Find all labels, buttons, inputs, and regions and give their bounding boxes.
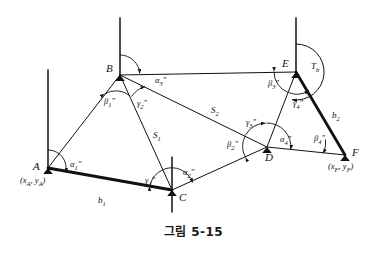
point-label-e: E xyxy=(282,58,289,69)
figure-caption: 그림 5-15 xyxy=(0,222,387,239)
station-marker-c xyxy=(167,190,177,196)
bearing-tb-sub: b xyxy=(316,66,319,73)
angle-label-alpha-2: α2″ xyxy=(183,168,194,179)
angle-alpha-3-marks: ″ xyxy=(163,75,167,85)
side-label-s1: S1 xyxy=(153,131,161,142)
side-label-b1: b1 xyxy=(98,196,106,207)
traverse-lines-thin xyxy=(48,72,345,190)
angle-label-beta-2: β2″ xyxy=(227,140,238,151)
baseline-lines-thick xyxy=(48,72,345,190)
coord-a-open: (x xyxy=(20,175,27,185)
arc-beta-2 xyxy=(243,136,246,158)
angle-alpha-2-marks: ″ xyxy=(191,167,195,177)
figure-root: A B C D E F (xA, yA) (xF, yF) b1 b2 S1 S… xyxy=(0,0,387,256)
coordinate-label-f: (xF, yF) xyxy=(328,162,353,173)
station-marker-b xyxy=(115,75,125,81)
station-markers xyxy=(43,72,350,196)
angle-gamma-1-marks: ″ xyxy=(152,175,156,185)
side-s2-sub: 2 xyxy=(216,110,219,117)
coordinate-label-a: (xA, yA) xyxy=(20,176,45,187)
angle-label-alpha-3: α3″ xyxy=(155,76,166,87)
angle-label-beta-4: β4″ xyxy=(314,134,325,145)
angle-label-alpha-1: α1″ xyxy=(70,160,81,171)
point-label-a: A xyxy=(33,161,40,172)
side-label-s2: S2 xyxy=(211,106,219,117)
angle-label-alpha-4: α4″ xyxy=(280,135,291,146)
side-b2-sub: 2 xyxy=(337,115,340,122)
arc-beta-1 xyxy=(105,91,131,96)
angle-beta-4-marks: ″ xyxy=(321,133,325,143)
angle-label-gamma-2: γ2″ xyxy=(137,99,147,110)
point-label-f: F xyxy=(352,147,359,158)
angle-label-gamma-4: γ4″ xyxy=(293,99,303,110)
angle-beta-3-marks: ″ xyxy=(275,78,279,88)
bearing-label-tb: Tb xyxy=(311,62,319,73)
point-label-c: C xyxy=(179,192,186,203)
angle-label-gamma-1: γ1″ xyxy=(145,176,155,187)
meridian-lines xyxy=(48,18,296,212)
angle-alpha-4-marks: ″ xyxy=(288,134,292,144)
coord-f-open: (x xyxy=(328,161,335,171)
angle-label-gamma-3: γ3″ xyxy=(246,118,256,129)
angle-gamma-3-marks: ″ xyxy=(253,117,257,127)
point-label-d: D xyxy=(265,152,273,163)
arc-gamma-2 xyxy=(132,87,146,97)
line-d-f xyxy=(267,147,345,155)
side-s1-sub: 1 xyxy=(158,135,161,142)
angle-label-beta-1: β1″ xyxy=(104,97,115,108)
coord-a-close: ) xyxy=(43,175,46,185)
coord-a-mid: , y xyxy=(31,175,39,185)
coord-f-close: ) xyxy=(351,161,354,171)
side-label-b2: b2 xyxy=(332,111,340,122)
line-a-b xyxy=(48,75,120,168)
traverse-diagram xyxy=(0,0,387,256)
arc-alpha-3 xyxy=(120,55,140,74)
side-b1-sub: 1 xyxy=(103,200,106,207)
line-b-c xyxy=(120,75,172,190)
angle-label-beta-3: β3″ xyxy=(268,79,279,90)
point-label-b: B xyxy=(106,63,113,74)
angle-gamma-4-marks: ″ xyxy=(300,98,304,108)
line-b-e xyxy=(120,72,296,75)
coord-f-mid: , y xyxy=(339,161,347,171)
angle-alpha-1-marks: ″ xyxy=(78,159,82,169)
angle-beta-1-marks: ″ xyxy=(111,96,115,106)
angle-beta-2-marks: ″ xyxy=(234,139,238,149)
angle-gamma-2-marks: ″ xyxy=(144,98,148,108)
